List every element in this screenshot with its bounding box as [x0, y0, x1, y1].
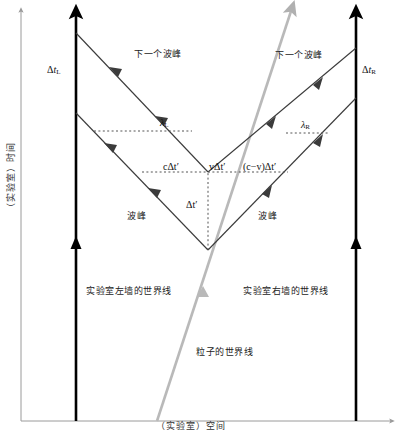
delta-t-right-label: ΔtR — [362, 65, 376, 76]
crest-left-label: 波峰 — [127, 212, 146, 221]
worldline-particle-label: 粒子的世界线 — [196, 348, 253, 357]
crest-left-ray-group — [76, 113, 208, 250]
delta-t-prime-label: Δt′ — [186, 200, 197, 210]
worldline-left-wall-label: 实验室左墙的世界线 — [86, 287, 172, 296]
next-crest-right-ray-group — [208, 48, 356, 172]
crest-left-ray-arrow-2 — [104, 143, 117, 153]
c-delta-t-prime-label: cΔt′ — [163, 162, 179, 172]
right-wall-worldline-group — [351, 12, 362, 421]
lambda-right-label: λR — [301, 120, 310, 131]
worldline-right-wall-label: 实验室右墙的世界线 — [243, 287, 329, 296]
spacetime-diagram-figure: ΔtL ΔtR λL λR cΔt′ vΔt′ (c−v)Δt′ Δt′ 下一个… — [0, 0, 401, 434]
next-crest-right-ray — [208, 48, 356, 172]
x-axis-label: （实验室）空间 — [156, 422, 226, 431]
lambda-left-label: λL — [160, 118, 169, 129]
right-wall-midpoint-arrowhead — [351, 236, 362, 249]
v-delta-t-prime-label: vΔt′ — [209, 162, 225, 172]
next-crest-left-label: 下一个波峰 — [134, 50, 182, 59]
next-crest-right-ray-arrow-2 — [313, 77, 323, 90]
next-crest-left-ray-arrow-2 — [109, 67, 122, 77]
left-wall-worldline-group — [71, 12, 82, 421]
crest-right-ray-group — [208, 98, 356, 250]
delta-t-left-label: ΔtL — [47, 65, 61, 76]
crest-left-ray-arrow-1 — [148, 188, 161, 198]
dashed-guides-group — [94, 131, 330, 250]
crest-right-ray — [208, 98, 356, 250]
crest-right-label: 波峰 — [258, 212, 277, 221]
c-minus-v-delta-t-prime-label: (c−v)Δt′ — [243, 162, 276, 172]
y-axis-label: （实验室）时间 — [7, 132, 16, 222]
next-crest-right-label: 下一个波峰 — [275, 51, 323, 60]
crest-right-ray-arrow-1 — [262, 185, 272, 198]
crest-left-ray — [76, 113, 208, 250]
left-wall-midpoint-arrowhead — [71, 236, 82, 249]
